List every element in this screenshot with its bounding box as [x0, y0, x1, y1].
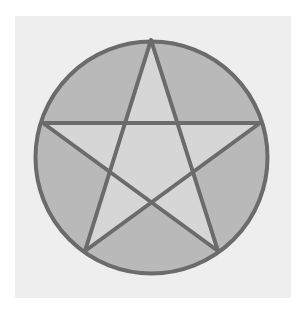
- pentagram-diagram: [0, 0, 305, 312]
